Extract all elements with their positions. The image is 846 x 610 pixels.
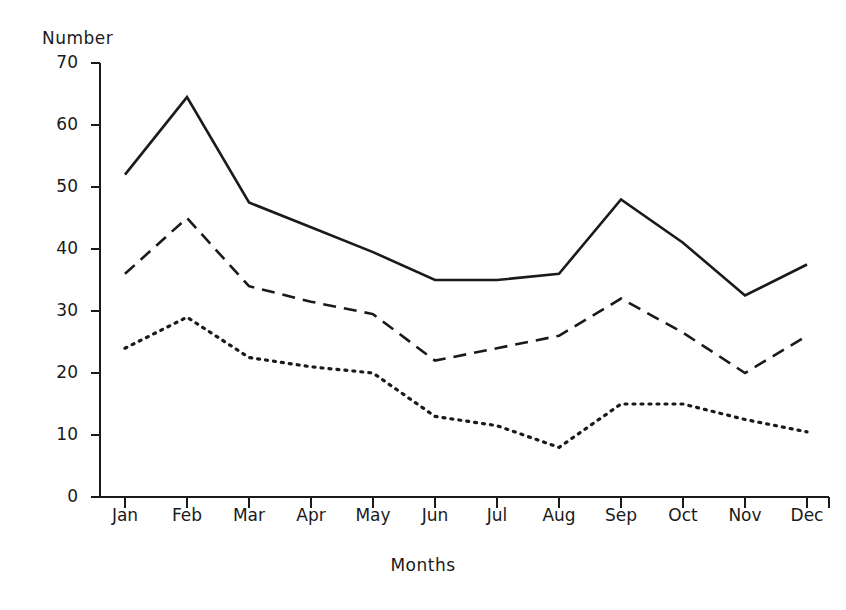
line-chart: Number Months 706050403020100 JanFebMarA…	[0, 0, 846, 610]
series-solid	[125, 97, 807, 295]
plot-area	[0, 0, 846, 610]
axis-lines	[91, 63, 829, 508]
series-dotted	[125, 317, 807, 447]
series-dashed	[125, 218, 807, 373]
data-series-group	[125, 97, 807, 447]
